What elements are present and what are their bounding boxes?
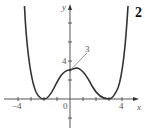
x-axis-arrow-icon [133, 97, 139, 101]
x-axis-label: x [136, 102, 141, 112]
x-tick-label-neg4: −4 [12, 101, 22, 111]
y-intercept-point [69, 69, 71, 71]
y-tick-label-4: 4 [62, 56, 67, 66]
annotation-leader-line [71, 53, 88, 70]
x-tick-label-4: 4 [119, 101, 124, 111]
y-axis-label: y [61, 2, 66, 12]
y-axis-arrow-icon [68, 4, 72, 10]
annotation-label-3: 3 [85, 44, 90, 54]
function-graph: y x −4 0 4 4 3 2 [0, 0, 145, 131]
function-curve [25, 6, 129, 99]
problem-number: 2 [135, 5, 142, 20]
origin-label: 0 [63, 101, 68, 111]
